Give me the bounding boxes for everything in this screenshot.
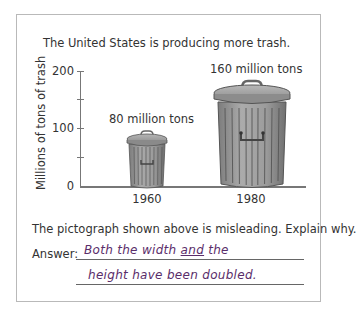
bar-label-1960: 80 million tons bbox=[109, 112, 194, 126]
y-axis bbox=[80, 71, 81, 187]
chart-title: The United States is producing more tras… bbox=[0, 36, 333, 50]
y-tick-100: 100 bbox=[44, 121, 74, 135]
y-tick-0: 0 bbox=[44, 179, 74, 193]
handwritten-answer-line-2: height have been doubled. bbox=[88, 268, 257, 282]
trash-can-icon bbox=[124, 130, 170, 190]
y-tick-200: 200 bbox=[44, 64, 74, 78]
tick-mark bbox=[77, 157, 84, 158]
bar-label-1980: 160 million tons bbox=[210, 62, 302, 76]
question-prompt: The pictograph shown above is misleading… bbox=[32, 222, 357, 236]
answer-emphasis: and bbox=[181, 243, 204, 257]
x-category-1960: 1960 bbox=[117, 192, 177, 206]
tick-mark bbox=[77, 99, 84, 100]
x-category-1980: 1980 bbox=[221, 192, 281, 206]
answer-line[interactable] bbox=[76, 259, 304, 260]
handwritten-answer-line-1: Both the width and the bbox=[84, 243, 229, 257]
trash-can-icon bbox=[210, 78, 294, 192]
tick-mark bbox=[77, 128, 84, 129]
tick-mark bbox=[77, 71, 84, 72]
answer-text: the bbox=[204, 243, 229, 257]
answer-label: Answer: bbox=[32, 247, 78, 261]
answer-line[interactable] bbox=[76, 284, 304, 285]
answer-text: Both the width bbox=[84, 243, 181, 257]
